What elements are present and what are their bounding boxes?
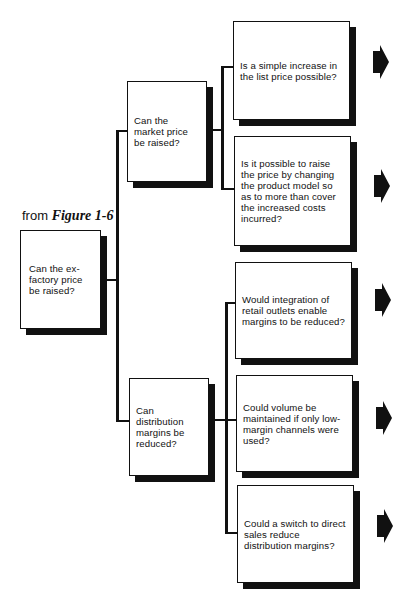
connector-distribution-out (208, 419, 237, 421)
node-list-price-text: Is a simple increase in the list price p… (234, 60, 349, 82)
node-retail-integration-text: Would integration of retail outlets enab… (236, 294, 351, 327)
source-figure-label: from Figure 1-6 (22, 208, 113, 224)
connector-trunk-distribution (225, 302, 228, 534)
node-product-model-text: Is it possible to raise the price by cha… (235, 158, 350, 224)
block-arrow-right-icon (374, 169, 390, 203)
node-retail-integration: Would integration of retail outlets enab… (235, 262, 352, 359)
block-arrow-right-icon (376, 401, 392, 435)
connector-trunk-level1 (116, 130, 119, 422)
connector-to-product-model (221, 188, 235, 190)
node-market-price-text: Can the market price be raised? (128, 115, 206, 148)
node-distribution-margins-text: Can distribution margins be reduced? (130, 405, 208, 449)
block-arrow-right-icon (373, 45, 389, 79)
connector-to-distribution (116, 420, 130, 422)
root-node-text: Can the ex-factory price be raised? (21, 263, 100, 296)
node-product-model: Is it possible to raise the price by cha… (234, 136, 351, 246)
block-arrow-right-icon (375, 283, 391, 317)
node-direct-sales-text: Could a switch to direct sales reduce di… (238, 518, 353, 551)
source-figure-ref: Figure 1-6 (52, 208, 114, 223)
node-low-margin-channels: Could volume be maintained if only low-m… (236, 375, 353, 472)
connector-trunk-market (221, 66, 224, 190)
source-prefix: from (22, 208, 48, 223)
root-node: Can the ex-factory price be raised? (20, 230, 101, 329)
block-arrow-right-icon (377, 509, 393, 543)
node-low-margin-channels-text: Could volume be maintained if only low-m… (237, 402, 352, 446)
node-distribution-margins: Can distribution margins be reduced? (129, 378, 209, 476)
node-list-price: Is a simple increase in the list price p… (233, 21, 350, 120)
node-market-price: Can the market price be raised? (127, 81, 207, 182)
node-direct-sales: Could a switch to direct sales reduce di… (237, 485, 354, 583)
